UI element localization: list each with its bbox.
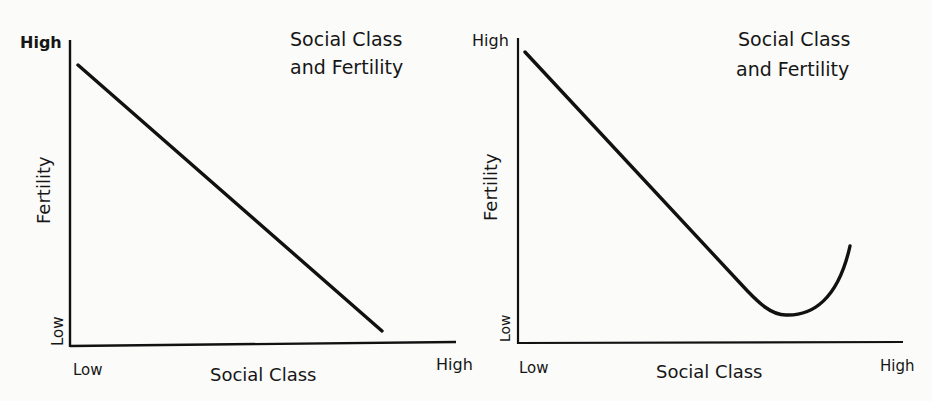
chart-title-line2: and Fertility [290, 56, 403, 78]
figure: High Low Fertility Low Social Class High… [0, 0, 932, 401]
y-axis-title: Fertility [33, 156, 54, 224]
x-axis-title: Social Class [210, 364, 316, 385]
x-axis-title: Social Class [656, 361, 762, 382]
x-high-label: High [436, 355, 473, 374]
y-low-label: Low [49, 316, 67, 346]
chart-title-line1: Social Class [738, 28, 850, 50]
y-low-label: Low [497, 314, 513, 342]
chart-linear: High Low Fertility Low Social Class High… [20, 28, 473, 385]
chart-title-line2: and Fertility [736, 58, 849, 80]
fertility-line [78, 65, 382, 331]
y-axis-title: Fertility [480, 153, 501, 221]
x-low-label: Low [519, 359, 549, 377]
fertility-curve [525, 52, 850, 315]
chart-j-curve: High Low Fertility Low Social Class High… [472, 28, 914, 382]
x-axis [70, 342, 456, 346]
x-low-label: Low [73, 361, 103, 379]
y-high-label: High [20, 33, 62, 52]
x-high-label: High [880, 357, 914, 375]
chart-title-line1: Social Class [290, 28, 402, 50]
x-axis [518, 342, 903, 343]
y-high-label: High [472, 31, 509, 50]
